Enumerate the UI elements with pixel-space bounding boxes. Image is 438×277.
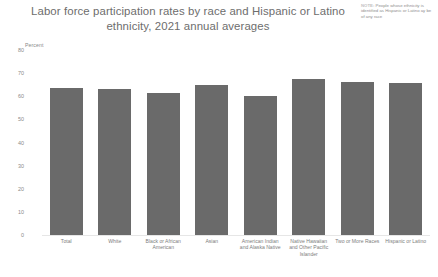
note-label: NOTE: bbox=[361, 3, 374, 8]
bar[interactable] bbox=[292, 79, 325, 235]
y-axis-tick-label: 60 bbox=[18, 93, 24, 99]
bar-slot bbox=[42, 50, 91, 235]
bar[interactable] bbox=[244, 96, 277, 235]
y-axis-tick-label: 70 bbox=[18, 70, 24, 76]
y-axis-tick-label: 40 bbox=[18, 140, 24, 146]
bar-slot bbox=[285, 50, 334, 235]
x-axis-category-label: American Indian and Alaska Native bbox=[236, 238, 285, 274]
plot-area bbox=[42, 50, 430, 235]
y-axis-tick-label: 20 bbox=[18, 186, 24, 192]
bar-slot bbox=[188, 50, 237, 235]
bar[interactable] bbox=[98, 89, 131, 235]
y-axis-unit-label: Percent bbox=[25, 42, 44, 48]
y-axis-tick-label: 50 bbox=[18, 116, 24, 122]
bar-slot bbox=[91, 50, 140, 235]
x-axis: TotalWhiteBlack or African AmericanAsian… bbox=[42, 238, 430, 274]
x-axis-category-label: Asian bbox=[188, 238, 237, 274]
x-axis-category-label: White bbox=[91, 238, 140, 274]
y-axis-tick-label: 0 bbox=[21, 232, 24, 238]
bar-slot bbox=[333, 50, 382, 235]
bar-series bbox=[42, 50, 430, 235]
x-axis-category-label: Native Hawaiian and Other Pacific Island… bbox=[285, 238, 334, 274]
x-axis-category-label: Total bbox=[42, 238, 91, 274]
bar[interactable] bbox=[341, 82, 374, 235]
bar-chart: Labor force participation rates by race … bbox=[0, 0, 438, 277]
x-axis-category-label: Black or African American bbox=[139, 238, 188, 274]
y-axis-tick-label: 10 bbox=[18, 209, 24, 215]
y-axis: 80706050403020100 bbox=[0, 50, 40, 235]
chart-title: Labor force participation rates by race … bbox=[22, 4, 354, 34]
y-axis-tick-label: 30 bbox=[18, 163, 24, 169]
axis-baseline bbox=[42, 235, 430, 236]
bar-slot bbox=[236, 50, 285, 235]
bar[interactable] bbox=[147, 93, 180, 235]
bar[interactable] bbox=[389, 83, 422, 235]
chart-note: NOTE: People whose ethnicity is identifi… bbox=[361, 3, 435, 19]
x-axis-category-label: Hispanic or Latino bbox=[382, 238, 431, 274]
y-axis-tick-label: 80 bbox=[18, 47, 24, 53]
x-axis-category-label: Two or More Races bbox=[333, 238, 382, 274]
bar[interactable] bbox=[50, 88, 83, 235]
bar-slot bbox=[139, 50, 188, 235]
bar-slot bbox=[382, 50, 431, 235]
bar[interactable] bbox=[195, 85, 228, 235]
